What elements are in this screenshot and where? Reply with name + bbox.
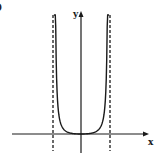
x-axis-arrow-icon	[143, 132, 149, 137]
panel-label: )	[0, 2, 2, 12]
y-axis-arrow-icon	[79, 11, 84, 17]
x-axis-label: x	[148, 137, 154, 147]
graph-figure: ) x y	[0, 0, 159, 160]
y-axis-label: y	[72, 9, 79, 19]
y-axis	[79, 11, 84, 153]
